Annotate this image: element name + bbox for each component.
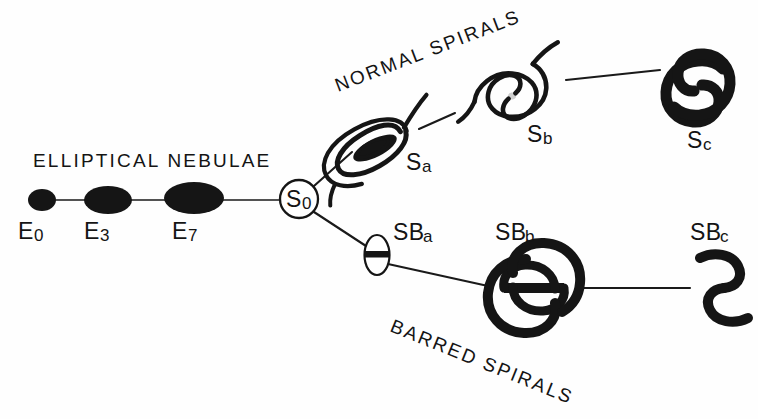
node-label-sc: S c (687, 127, 712, 154)
node-label-sbb-sub: b (525, 227, 534, 246)
section-label-elliptical: ELLIPTICAL NEBULAE (33, 150, 271, 171)
node-label-e7-main: E (172, 218, 188, 244)
connector-sa-sb (419, 113, 455, 129)
node-label-e3-main: E (84, 218, 100, 244)
node-label-e0-main: E (18, 218, 34, 244)
node-label-sc-main: S (687, 127, 703, 153)
hubble-tuning-fork-figure: ELLIPTICAL NEBULAE NORMAL SPIRALS BARRED… (0, 0, 758, 419)
node-label-s0-sub: 0 (302, 194, 311, 213)
galaxy-sbb (488, 243, 580, 333)
node-label-sb-main: S (527, 121, 543, 147)
node-label-sbb: SB b (495, 219, 534, 246)
galaxy-e7 (164, 182, 224, 214)
galaxy-sb (446, 42, 571, 130)
sba-bar (365, 251, 389, 258)
galaxy-sbc (700, 254, 748, 321)
node-label-sbc-main: SB (690, 219, 722, 245)
diagram-canvas: ELLIPTICAL NEBULAE NORMAL SPIRALS BARRED… (0, 0, 758, 419)
node-label-sb: S b (527, 121, 552, 148)
node-label-sa-sub: a (422, 157, 432, 176)
sbc-arm-upper (700, 254, 740, 288)
node-label-e0-sub: 0 (34, 226, 43, 245)
node-label-e3-sub: 3 (100, 226, 109, 245)
node-label-sba-main: SB (393, 219, 425, 245)
galaxy-e0 (28, 189, 56, 211)
node-label-sa-main: S (406, 149, 422, 175)
node-label-sa: S a (406, 149, 432, 176)
galaxy-sc (666, 54, 730, 122)
node-label-sbc: SB c (690, 219, 729, 246)
galaxy-sba (365, 235, 390, 275)
node-label-sc-sub: c (703, 135, 712, 154)
sbc-arm-lower (708, 288, 748, 322)
node-label-e0: E 0 (18, 218, 43, 245)
connector-sba-sbb (388, 264, 488, 286)
node-label-sbb-main: SB (495, 219, 527, 245)
connector-s0-sba (314, 212, 366, 246)
node-label-e7-sub: 7 (188, 226, 197, 245)
node-label-s0-main: S (286, 186, 302, 212)
node-label-sb-sub: b (543, 129, 552, 148)
node-label-sbc-sub: c (720, 227, 729, 246)
node-label-sba-sub: a (423, 227, 433, 246)
connector-sb-sc (566, 70, 660, 80)
node-label-e3: E 3 (84, 218, 109, 245)
node-label-e7: E 7 (172, 218, 197, 245)
galaxy-e3 (84, 186, 132, 214)
node-label-sba: SB a (393, 219, 433, 246)
galaxy-sa (304, 93, 451, 206)
